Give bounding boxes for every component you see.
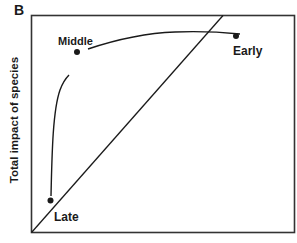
chart-svg: B Late Middle Early Total impact of spec… (0, 0, 297, 243)
point-middle (74, 49, 80, 55)
panel-label: B (14, 2, 24, 18)
reference-diagonal-line (32, 16, 224, 233)
label-middle: Middle (58, 35, 93, 47)
label-early: Early (233, 44, 263, 58)
trajectory-curve-late-to-middle (51, 75, 69, 196)
figure-panel: B Late Middle Early Total impact of spec… (0, 0, 297, 243)
trajectory-curve-middle-to-early (88, 32, 240, 49)
y-axis-label: Total impact of species (8, 57, 20, 183)
point-early (233, 33, 239, 39)
point-late (48, 198, 54, 204)
label-late: Late (54, 210, 79, 224)
